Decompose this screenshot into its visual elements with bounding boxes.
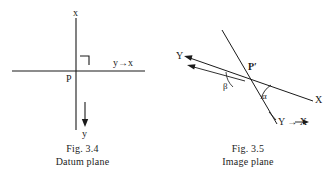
datum-caption-title: Datum plane bbox=[0, 155, 165, 168]
image-caption-title: Image plane bbox=[165, 155, 331, 168]
datum-axis-right-label: y→x bbox=[113, 58, 133, 68]
lower-right-tick bbox=[269, 112, 276, 120]
image-axis-upper-left-label: Y bbox=[176, 51, 183, 61]
datum-plane-caption: Fig. 3.4 Datum plane bbox=[0, 142, 165, 168]
angle-beta-label: β bbox=[223, 81, 228, 91]
angle-alpha-label: α bbox=[262, 91, 267, 101]
datum-origin-label: P bbox=[66, 74, 72, 84]
parallel-direction-shaft bbox=[190, 66, 245, 81]
oblique-axis-arrow-icon bbox=[184, 55, 193, 61]
figure-datum-plane: x y→x P y Fig. 3.4 Datum plane bbox=[0, 0, 165, 181]
down-arrow-icon bbox=[82, 119, 88, 127]
image-plane-caption: Fig. 3.5 Image plane bbox=[165, 142, 331, 168]
image-axis-right-label: X bbox=[315, 95, 322, 105]
datum-axis-down-label: y bbox=[82, 129, 87, 139]
figure-image-plane: Y X P′ α β Y → X Fig. 3.5 Image plane bbox=[165, 0, 331, 181]
datum-plane-drawing bbox=[0, 0, 165, 140]
image-axis-lower-right-label: Y → X bbox=[278, 117, 307, 127]
image-origin-label: P′ bbox=[248, 62, 257, 72]
figure-page: x y→x P y Fig. 3.4 Datum plane bbox=[0, 0, 331, 181]
image-caption-number: Fig. 3.5 bbox=[165, 142, 331, 155]
right-angle-mark-icon bbox=[80, 56, 89, 65]
datum-axis-up-label: x bbox=[73, 8, 78, 18]
datum-caption-number: Fig. 3.4 bbox=[0, 142, 165, 155]
parallel-direction-arrow-icon bbox=[187, 64, 196, 69]
